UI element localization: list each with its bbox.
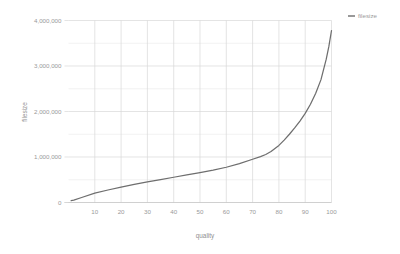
- legend-label[interactable]: filesize: [358, 12, 377, 19]
- x-tick-label: 40: [170, 208, 177, 215]
- y-tick-label: 1,000,000: [34, 153, 62, 160]
- x-tick-label: 20: [118, 208, 125, 215]
- series-layer: [71, 31, 331, 201]
- x-tick-label: 60: [223, 208, 230, 215]
- y-axis-title: filesize: [21, 102, 28, 122]
- line-chart: 01,000,0002,000,0003,000,0004,000,000 10…: [0, 0, 400, 254]
- grid-major-layer: [69, 21, 332, 203]
- x-tick-label: 50: [197, 208, 204, 215]
- y-tick-label: 3,000,000: [34, 62, 62, 69]
- x-axis-title: quality: [196, 232, 215, 240]
- x-tick-label: 80: [275, 208, 282, 215]
- y-tick-labels: 01,000,0002,000,0003,000,0004,000,000: [34, 17, 62, 206]
- x-tick-label: 90: [302, 208, 309, 215]
- x-tick-label: 30: [144, 208, 151, 215]
- chart-container: 01,000,0002,000,0003,000,0004,000,000 10…: [0, 0, 400, 254]
- x-tick-label: 70: [249, 208, 256, 215]
- y-tick-label: 0: [58, 199, 62, 206]
- y-tick-label: 4,000,000: [34, 17, 62, 24]
- x-tick-label: 10: [91, 208, 98, 215]
- x-tick-labels: 102030405060708090100: [91, 208, 337, 215]
- x-tick-label: 100: [326, 208, 337, 215]
- legend: filesize: [348, 12, 377, 19]
- y-tick-label: 2,000,000: [34, 108, 62, 115]
- series-line-filesize: [71, 31, 331, 201]
